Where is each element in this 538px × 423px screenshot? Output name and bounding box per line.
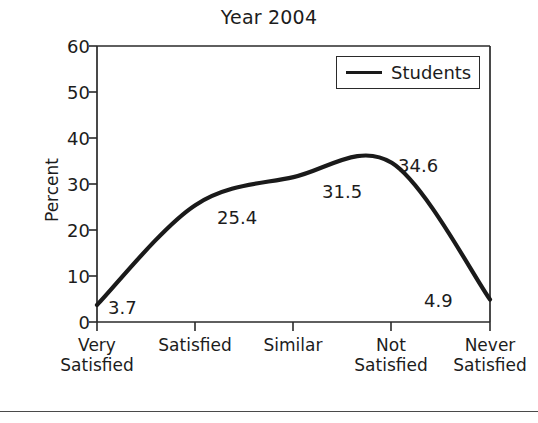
chart-legend: Students [336, 56, 480, 89]
data-series-line-students [97, 155, 490, 305]
x-tick-label-satisfied: Satisfied [158, 336, 231, 356]
data-label-never-satisfied: 4.9 [424, 292, 453, 310]
data-label-similar: 31.5 [322, 183, 362, 201]
y-axis-ticks [89, 46, 97, 322]
x-tick-label-not-satisfied: Not Satisfied [354, 336, 427, 375]
x-tick-label-never-satisfied: Never Satisfied [453, 336, 526, 375]
x-tick-label-very-satisfied: Very Satisfied [60, 336, 133, 375]
data-label-satisfied: 25.4 [217, 209, 257, 227]
legend-entry-students: Students [337, 57, 479, 88]
footer-divider [0, 411, 538, 412]
chart-figure: Year 2004 Percent 60 50 40 30 20 10 0 [0, 0, 538, 423]
x-axis-ticks [97, 322, 490, 331]
data-label-not-satisfied: 34.6 [398, 157, 438, 175]
x-tick-label-similar: Similar [264, 336, 323, 356]
data-label-very-satisfied: 3.7 [108, 299, 137, 317]
legend-label-students: Students [391, 62, 471, 83]
legend-line-swatch-icon [346, 71, 382, 74]
